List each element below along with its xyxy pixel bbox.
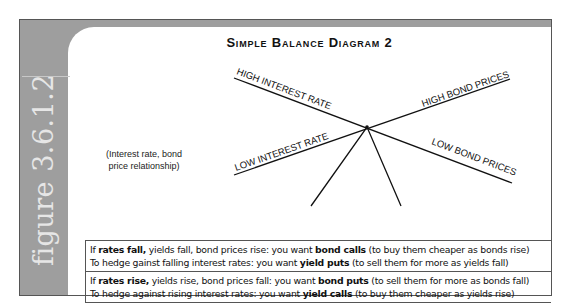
rule-text: (to buy them cheaper as bonds rise) [366,244,529,255]
rules-box: If rates fall, yields fall, bond prices … [85,240,551,303]
label-high-bond-prices: HIGH BOND PRICES [420,68,510,109]
rule-emphasis: bond calls [315,244,366,255]
rule-text: To hedge gainst falling interest rates: … [90,257,300,268]
rule-emphasis: rates fall, [98,244,146,255]
rule-text: If [90,244,98,255]
label-high-interest-rate: HIGH INTEREST RATE [235,66,333,112]
rule-text: (to buy them cheaper as yields rise) [352,288,514,299]
rule-text: To hedge against rising interest rates: … [90,288,303,299]
note-line-1: (Interest rate, bond [84,148,204,160]
rule-emphasis: yield calls [303,288,353,299]
rule-text: (to sell them for more as yields fall) [349,257,508,268]
pivot-point [365,125,369,129]
beam-interest-high-bond-low [234,78,512,183]
rule-emphasis: yield puts [300,257,349,268]
rule-emphasis: rates rise, [98,275,149,286]
rule-text: If [90,275,98,286]
rule-text: yields fall, bond prices rise: you want [146,244,315,255]
rule-line: If rates fall, yields fall, bond prices … [90,244,551,257]
relationship-note: (Interest rate, bond price relationship) [84,148,204,172]
rule-line: To hedge gainst falling interest rates: … [90,257,551,270]
label-low-interest-rate: LOW INTEREST RATE [233,130,330,173]
rule-emphasis: bond puts [318,275,369,286]
rule-text: (to sell them for more as bonds fall) [369,275,530,286]
rule-line: To hedge against rising interest rates: … [90,288,551,301]
rule-line: If rates rise, yields rise, bond prices … [90,275,551,288]
note-line-2: price relationship) [84,160,204,172]
rule-rates-fall: If rates fall, yields fall, bond prices … [86,241,551,271]
rule-rates-rise: If rates rise, yields rise, bond prices … [86,271,551,302]
rule-text: yields rise, bond prices fall: you want [149,275,318,286]
